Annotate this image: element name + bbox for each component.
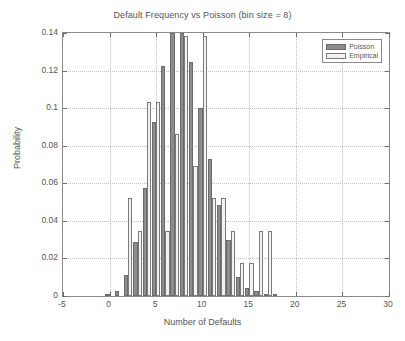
y-tick-label: 0.12 bbox=[16, 65, 58, 75]
bar-empirical-11 bbox=[212, 198, 216, 296]
y-tick-mark bbox=[385, 146, 389, 147]
gridline-horizontal bbox=[63, 146, 389, 148]
plot-area: Poisson Empirical bbox=[62, 32, 390, 297]
x-tick-label: 0 bbox=[89, 299, 129, 309]
y-tick-label: 0.06 bbox=[16, 177, 58, 187]
legend-label-empirical: Empirical bbox=[349, 52, 378, 59]
bar-empirical-4 bbox=[147, 102, 151, 296]
bar-poisson-4 bbox=[143, 188, 147, 296]
gridline-horizontal bbox=[63, 108, 389, 110]
x-tick-mark bbox=[63, 33, 64, 37]
bar-poisson-11 bbox=[208, 159, 212, 296]
chart-title: Default Frequency vs Poisson (bin size =… bbox=[0, 10, 405, 20]
bar-poisson-1 bbox=[115, 291, 119, 296]
bar-poisson-7 bbox=[170, 33, 174, 296]
bar-poisson-15 bbox=[245, 288, 249, 296]
bar-poisson-12 bbox=[217, 205, 221, 296]
bar-poisson-0 bbox=[105, 294, 109, 296]
y-tick-label: 0.08 bbox=[16, 140, 58, 150]
bar-empirical-6 bbox=[165, 231, 169, 296]
bar-poisson-5 bbox=[152, 122, 156, 296]
x-tick-label: 30 bbox=[368, 299, 405, 309]
y-tick-mark bbox=[385, 296, 389, 297]
bar-poisson-14 bbox=[236, 277, 240, 296]
legend-item-empirical: Empirical bbox=[326, 51, 378, 60]
legend-swatch-empirical bbox=[326, 53, 346, 59]
y-tick-mark bbox=[385, 71, 389, 72]
y-tick-mark bbox=[63, 71, 67, 72]
gridline-vertical bbox=[249, 33, 251, 296]
plot-inner bbox=[63, 33, 389, 296]
x-tick-label: 10 bbox=[182, 299, 222, 309]
x-tick-label: 25 bbox=[321, 299, 361, 309]
bar-poisson-9 bbox=[189, 62, 193, 296]
gridline-horizontal bbox=[63, 221, 389, 223]
bar-empirical-14 bbox=[240, 263, 244, 296]
bar-empirical-9 bbox=[193, 166, 197, 296]
y-tick-mark bbox=[63, 108, 67, 109]
gridline-vertical bbox=[296, 33, 298, 296]
bar-empirical-2 bbox=[128, 198, 132, 296]
x-tick-mark bbox=[110, 33, 111, 37]
bar-poisson-6 bbox=[161, 66, 165, 296]
x-tick-mark bbox=[342, 292, 343, 296]
x-tick-mark bbox=[110, 292, 111, 296]
y-tick-label: 0.04 bbox=[16, 215, 58, 225]
bar-empirical-12 bbox=[221, 198, 225, 296]
y-tick-mark bbox=[385, 108, 389, 109]
bar-empirical-17 bbox=[268, 231, 272, 296]
bar-poisson-10 bbox=[198, 108, 202, 296]
x-tick-mark bbox=[296, 33, 297, 37]
x-tick-mark bbox=[296, 292, 297, 296]
x-tick-mark bbox=[156, 33, 157, 37]
y-tick-label: 0.1 bbox=[16, 102, 58, 112]
y-tick-mark bbox=[63, 183, 67, 184]
x-tick-mark bbox=[249, 33, 250, 37]
legend-swatch-poisson bbox=[326, 44, 346, 50]
y-tick-mark bbox=[63, 296, 67, 297]
bar-empirical-7 bbox=[175, 134, 179, 296]
y-tick-mark bbox=[385, 183, 389, 184]
bar-poisson-13 bbox=[226, 240, 230, 296]
bar-empirical-16 bbox=[259, 231, 263, 296]
y-tick-label: 0.14 bbox=[16, 27, 58, 37]
gridline-vertical bbox=[342, 33, 344, 296]
chart-legend: Poisson Empirical bbox=[322, 39, 382, 63]
gridline-vertical bbox=[110, 33, 112, 296]
bar-empirical-3 bbox=[138, 231, 142, 296]
y-tick-mark bbox=[385, 221, 389, 222]
bar-poisson-16 bbox=[254, 291, 258, 296]
bar-poisson-8 bbox=[180, 33, 184, 296]
x-tick-label: 15 bbox=[228, 299, 268, 309]
x-tick-mark bbox=[389, 292, 390, 296]
bar-empirical-10 bbox=[203, 36, 207, 296]
bar-empirical-13 bbox=[231, 231, 235, 296]
x-tick-label: 20 bbox=[275, 299, 315, 309]
bar-poisson-17 bbox=[264, 294, 268, 296]
x-tick-label: -5 bbox=[42, 299, 82, 309]
y-tick-mark bbox=[63, 258, 67, 259]
x-axis-label: Number of Defaults bbox=[0, 317, 405, 327]
y-tick-mark bbox=[63, 146, 67, 147]
x-tick-mark bbox=[342, 33, 343, 37]
bar-poisson-18 bbox=[273, 294, 277, 296]
x-tick-mark bbox=[389, 33, 390, 37]
y-tick-mark bbox=[385, 258, 389, 259]
gridline-horizontal bbox=[63, 71, 389, 73]
x-tick-mark bbox=[63, 292, 64, 296]
legend-item-poisson: Poisson bbox=[326, 42, 378, 51]
chart-figure: Default Frequency vs Poisson (bin size =… bbox=[0, 0, 405, 341]
bar-poisson-3 bbox=[133, 242, 137, 296]
legend-label-poisson: Poisson bbox=[349, 43, 374, 50]
y-tick-mark bbox=[63, 221, 67, 222]
bar-empirical-8 bbox=[184, 36, 188, 296]
x-tick-label: 5 bbox=[135, 299, 175, 309]
bar-empirical-5 bbox=[156, 102, 160, 296]
bar-poisson-2 bbox=[124, 275, 128, 296]
gridline-horizontal bbox=[63, 183, 389, 185]
y-tick-label: 0.02 bbox=[16, 252, 58, 262]
bar-empirical-15 bbox=[249, 263, 253, 296]
